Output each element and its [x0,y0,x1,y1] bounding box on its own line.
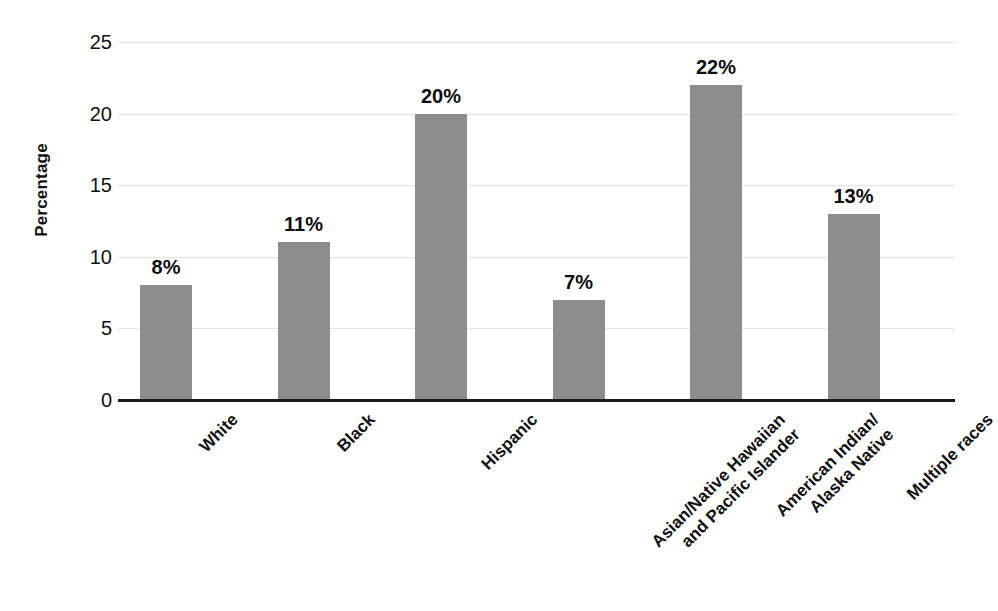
x-axis-line [118,399,955,402]
y-axis-tick-10: 10 [90,245,112,268]
y-axis-title: Percentage [32,120,52,260]
bar[interactable] [828,214,880,400]
bar-value-label: 13% [804,185,904,208]
bar[interactable] [278,242,330,400]
y-axis-tick-0: 0 [101,389,112,412]
bar-value-label: 7% [529,271,629,294]
bar-value-label: 8% [116,256,216,279]
y-axis-tick-25: 25 [90,31,112,54]
plot-area: 8%11%20%7%22%13% [118,42,955,400]
bar[interactable] [415,114,467,400]
bar-value-label: 22% [666,56,766,79]
y-axis-tick-5: 5 [101,317,112,340]
bar-group[interactable]: 20% [415,42,467,400]
bar[interactable] [553,300,605,400]
bar-group[interactable]: 22% [690,42,742,400]
x-axis-label: Multiple races [903,410,998,505]
bar-group[interactable]: 13% [828,42,880,400]
bar-group[interactable]: 8% [140,42,192,400]
y-axis-tick-15: 15 [90,174,112,197]
x-axis-label: Black [333,410,380,457]
bar-value-label: 11% [254,213,354,236]
bar-group[interactable]: 7% [553,42,605,400]
x-axis-label: Asian/Native Hawaiianand Pacific Islande… [647,410,804,567]
bar[interactable] [140,285,192,400]
y-axis-tick-labels: 0510152025 [60,42,112,400]
bar[interactable] [690,85,742,400]
x-axis-label: Hispanic [478,410,543,475]
chart-figure: Percentage 0510152025 8%11%20%7%22%13% W… [0,0,998,611]
bar-value-label: 20% [391,85,491,108]
x-axis-label: White [196,410,243,457]
y-axis-tick-20: 20 [90,102,112,125]
bar-group[interactable]: 11% [278,42,330,400]
